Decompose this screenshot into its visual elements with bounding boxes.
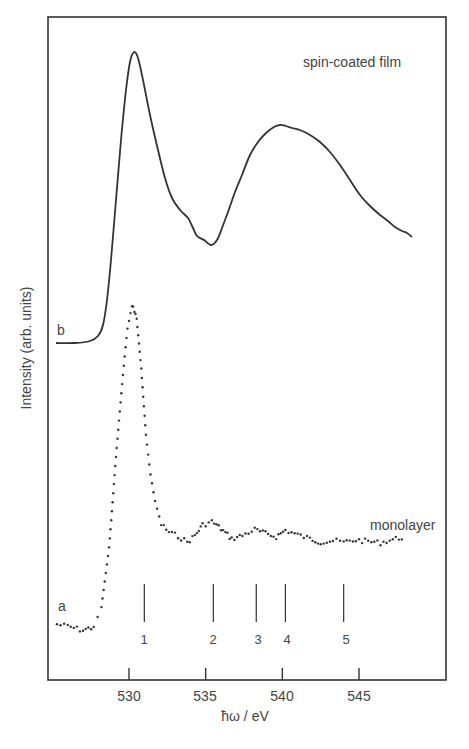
data-point: [236, 536, 238, 538]
data-point: [117, 429, 119, 431]
data-point: [398, 538, 400, 540]
marker-label-5: 5: [342, 632, 349, 647]
data-point: [373, 541, 375, 543]
data-point: [128, 320, 130, 322]
data-point: [262, 529, 264, 531]
x-tick-label-530: 530: [117, 688, 140, 704]
data-point: [110, 519, 112, 521]
data-point: [70, 626, 72, 628]
data-point: [218, 524, 220, 526]
data-point: [143, 405, 145, 407]
data-point: [143, 415, 145, 417]
data-point: [165, 529, 167, 531]
data-point: [121, 383, 123, 385]
data-point: [226, 532, 228, 534]
data-point: [87, 626, 89, 628]
data-point: [379, 544, 381, 546]
curve-label-b: b: [57, 322, 65, 338]
data-point: [96, 616, 98, 618]
data-point: [124, 346, 126, 348]
data-point: [168, 531, 170, 533]
data-point: [141, 386, 143, 388]
data-point: [241, 535, 243, 537]
data-point: [152, 491, 154, 493]
data-point: [145, 434, 147, 436]
data-point: [113, 474, 115, 476]
data-point: [125, 337, 127, 339]
data-point: [59, 624, 61, 626]
data-point: [137, 334, 139, 336]
data-point: [401, 538, 403, 540]
marker-label-2: 2: [209, 632, 216, 647]
data-point: [189, 541, 191, 543]
data-point: [105, 572, 107, 574]
data-point: [67, 624, 69, 626]
data-point: [191, 535, 193, 537]
data-point: [63, 623, 65, 625]
peak-marker-lines: [144, 584, 343, 622]
data-point: [326, 542, 328, 544]
data-point: [280, 532, 282, 534]
data-point: [277, 533, 279, 535]
data-point: [222, 529, 224, 531]
data-point: [339, 540, 341, 542]
data-point: [213, 522, 215, 524]
x-axis-ticks: [129, 668, 359, 680]
data-point: [138, 342, 140, 344]
data-point: [148, 463, 150, 465]
data-point: [233, 539, 235, 541]
data-point: [104, 580, 106, 582]
data-point: [224, 531, 226, 533]
x-axis-label: ħω / eV: [221, 708, 269, 724]
data-point: [309, 536, 311, 538]
data-point: [205, 525, 207, 527]
label-monolayer: monolayer: [370, 517, 435, 533]
data-point: [122, 374, 124, 376]
data-point: [136, 326, 138, 328]
data-point: [146, 443, 148, 445]
data-point: [231, 536, 233, 538]
data-point: [272, 536, 274, 538]
data-point: [382, 541, 384, 543]
data-point: [109, 537, 111, 539]
data-point: [256, 528, 258, 530]
data-point: [76, 625, 78, 627]
data-point: [160, 524, 162, 526]
data-point: [259, 530, 261, 532]
data-point: [108, 546, 110, 548]
data-point: [180, 539, 182, 541]
data-point: [320, 543, 322, 545]
data-point: [56, 623, 58, 625]
data-point: [124, 355, 126, 357]
data-point: [267, 533, 269, 535]
curve-label-a: a: [58, 598, 66, 614]
data-point: [174, 531, 176, 533]
data-point: [395, 536, 397, 538]
data-point: [200, 525, 202, 527]
data-point: [332, 540, 334, 542]
data-point: [385, 542, 387, 544]
data-point: [134, 313, 136, 315]
curve-spin-coated-film: [56, 52, 412, 343]
label-spin-coated-film: spin-coated film: [303, 54, 401, 70]
data-point: [139, 359, 141, 361]
data-point: [141, 377, 143, 379]
data-point: [93, 626, 95, 628]
data-point: [142, 396, 144, 398]
data-point: [346, 539, 348, 541]
data-point: [139, 351, 141, 353]
data-point: [177, 537, 179, 539]
data-point: [323, 542, 325, 544]
data-point: [293, 532, 295, 534]
data-point: [107, 555, 109, 557]
data-point: [112, 492, 114, 494]
data-point: [361, 542, 363, 544]
data-point: [355, 540, 357, 542]
x-tick-label-540: 540: [270, 688, 293, 704]
data-point: [317, 542, 319, 544]
x-tick-label-545: 545: [347, 688, 370, 704]
data-point: [211, 519, 213, 521]
data-point: [306, 535, 308, 537]
data-point: [154, 500, 156, 502]
data-point: [119, 410, 121, 412]
